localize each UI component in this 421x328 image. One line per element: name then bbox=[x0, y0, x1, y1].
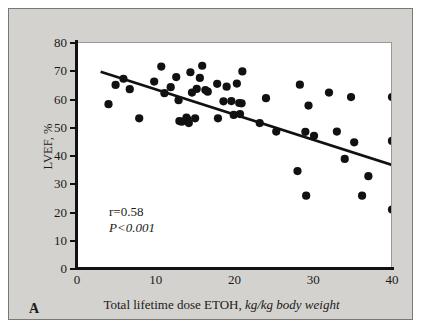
y-tick-mark bbox=[70, 212, 75, 214]
data-point bbox=[236, 110, 244, 118]
data-point bbox=[325, 88, 333, 96]
data-point bbox=[160, 89, 168, 97]
data-point bbox=[296, 81, 304, 89]
x-axis-label-italic: kg/kg body weight bbox=[245, 297, 340, 312]
x-tick-label: 40 bbox=[372, 273, 412, 286]
y-tick-label: 80 bbox=[33, 36, 67, 49]
y-tick-mark bbox=[70, 268, 75, 270]
data-point bbox=[104, 100, 112, 108]
data-point bbox=[256, 119, 264, 127]
y-axis-label: LVEF, % bbox=[41, 102, 56, 192]
x-axis-label-main: Total lifetime dose ETOH, bbox=[103, 297, 241, 312]
x-tick-label: 0 bbox=[57, 273, 97, 286]
data-point bbox=[174, 96, 182, 104]
data-point bbox=[193, 85, 201, 93]
y-tick-mark bbox=[70, 183, 75, 185]
y-tick-mark bbox=[70, 70, 75, 72]
pvalue-text: P<0.001 bbox=[109, 220, 155, 236]
data-point bbox=[214, 114, 222, 122]
data-point bbox=[293, 167, 301, 175]
data-point bbox=[227, 97, 235, 105]
y-tick-mark bbox=[70, 155, 75, 157]
data-point bbox=[341, 155, 349, 163]
data-point bbox=[347, 93, 355, 101]
x-tick-label: 20 bbox=[215, 273, 255, 286]
data-point bbox=[350, 138, 358, 146]
data-point bbox=[237, 99, 245, 107]
data-point bbox=[157, 62, 165, 70]
panel-letter: A bbox=[29, 301, 39, 317]
data-point bbox=[238, 67, 246, 75]
data-point bbox=[388, 137, 392, 145]
data-point bbox=[119, 75, 127, 83]
data-point bbox=[233, 79, 241, 87]
data-point bbox=[262, 94, 270, 102]
data-point bbox=[126, 85, 134, 93]
data-point bbox=[388, 205, 392, 213]
data-point bbox=[186, 68, 194, 76]
regression-line bbox=[101, 72, 392, 165]
data-point bbox=[213, 80, 221, 88]
y-tick-mark bbox=[70, 240, 75, 242]
data-point bbox=[172, 73, 180, 81]
y-tick-mark bbox=[70, 99, 75, 101]
data-point bbox=[304, 101, 312, 109]
y-tick-label: 10 bbox=[33, 234, 67, 247]
y-axis-line bbox=[75, 40, 78, 270]
data-point bbox=[198, 62, 206, 70]
data-point bbox=[111, 81, 119, 89]
data-point bbox=[364, 172, 372, 180]
data-point bbox=[167, 83, 175, 91]
data-point bbox=[302, 192, 310, 200]
x-axis-line bbox=[75, 267, 394, 270]
data-point bbox=[204, 88, 212, 96]
x-tick-label: 30 bbox=[293, 273, 333, 286]
data-point bbox=[191, 114, 199, 122]
data-point bbox=[223, 83, 231, 91]
correlation-value: r=0.58 bbox=[109, 204, 155, 220]
statistics-annotation: r=0.58 P<0.001 bbox=[109, 204, 155, 236]
data-point bbox=[333, 127, 341, 135]
y-tick-label: 70 bbox=[33, 64, 67, 77]
figure-panel: 01020304050607080 010203040 LVEF, % Tota… bbox=[8, 8, 413, 320]
x-tick-label: 10 bbox=[136, 273, 176, 286]
y-tick-mark bbox=[70, 127, 75, 129]
data-point bbox=[388, 93, 392, 101]
data-point bbox=[219, 97, 227, 105]
data-point bbox=[272, 127, 280, 135]
data-point bbox=[135, 114, 143, 122]
data-point bbox=[358, 192, 366, 200]
y-tick-label: 20 bbox=[33, 206, 67, 219]
figure-container: 01020304050607080 010203040 LVEF, % Tota… bbox=[0, 0, 421, 328]
data-point bbox=[196, 74, 204, 82]
data-point bbox=[310, 132, 318, 140]
data-point bbox=[301, 128, 309, 136]
data-point bbox=[150, 77, 158, 85]
y-tick-mark bbox=[70, 42, 75, 44]
x-axis-label: Total lifetime dose ETOH, kg/kg body wei… bbox=[49, 297, 394, 313]
